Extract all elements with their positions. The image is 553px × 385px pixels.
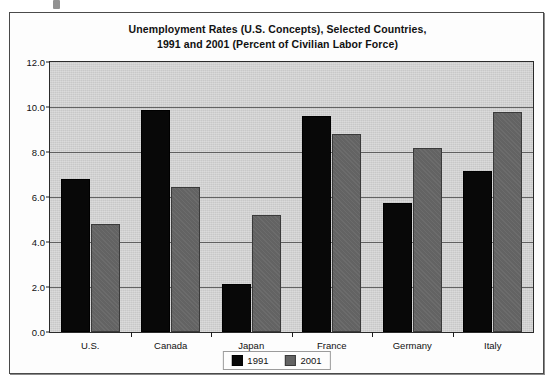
plot-area: 0.02.04.06.08.010.012.0U.S.CanadaJapanFr… (49, 61, 534, 333)
y-axis-tick-label: 0.0 (32, 327, 45, 338)
gridline (50, 287, 533, 288)
x-axis-tick-mark (372, 332, 373, 337)
bar-us-1991 (61, 179, 90, 332)
gridline (50, 197, 533, 198)
legend-entry-1991: 1991 (231, 355, 268, 366)
bar-france-1991 (302, 116, 331, 332)
bar-italy-2001 (493, 112, 522, 333)
x-axis-category-label: Italy (484, 340, 501, 351)
y-axis-tick-label: 6.0 (32, 192, 45, 203)
y-axis-tick-mark (46, 62, 50, 63)
chart-title: Unemployment Rates (U.S. Concepts), Sele… (10, 22, 545, 51)
bar-italy-1991 (463, 171, 492, 332)
x-axis-category-label: France (317, 340, 347, 351)
y-axis-tick-mark (46, 242, 50, 243)
gridline (50, 152, 533, 153)
x-axis-tick-mark (453, 332, 454, 337)
y-axis-tick-mark (46, 152, 50, 153)
y-axis-tick-label: 12.0 (27, 57, 46, 68)
bar-canada-2001 (171, 187, 200, 332)
gridline (50, 107, 533, 108)
bar-france-2001 (332, 134, 361, 332)
y-axis-tick-label: 10.0 (27, 102, 46, 113)
y-axis-tick-mark (46, 287, 50, 288)
scan-artifact (53, 0, 60, 9)
chart-frame: Unemployment Rates (U.S. Concepts), Sele… (9, 12, 544, 374)
y-axis-tick-label: 4.0 (32, 237, 45, 248)
y-axis-tick-label: 8.0 (32, 147, 45, 158)
x-axis-tick-mark (292, 332, 293, 337)
legend-label-2001: 2001 (301, 355, 322, 366)
bar-japan-2001 (252, 215, 281, 332)
x-axis-tick-mark (211, 332, 212, 337)
x-axis-category-label: Japan (238, 340, 264, 351)
gridline (50, 242, 533, 243)
bar-germany-1991 (383, 203, 412, 332)
legend-swatch-1991 (231, 355, 242, 366)
x-axis-category-label: Canada (154, 340, 187, 351)
x-axis-category-label: U.S. (81, 340, 99, 351)
bar-us-2001 (91, 224, 120, 332)
y-axis-tick-mark (46, 332, 50, 333)
x-axis-category-label: Germany (393, 340, 432, 351)
y-axis-tick-mark (46, 107, 50, 108)
legend-entry-2001: 2001 (285, 355, 322, 366)
bar-canada-1991 (141, 110, 170, 332)
y-axis-tick-mark (46, 197, 50, 198)
bar-japan-1991 (222, 284, 251, 332)
legend-label-1991: 1991 (247, 355, 268, 366)
y-axis-tick-label: 2.0 (32, 282, 45, 293)
chart-title-line-1: Unemployment Rates (U.S. Concepts), Sele… (10, 22, 545, 37)
bar-germany-2001 (413, 148, 442, 333)
x-axis-tick-mark (131, 332, 132, 337)
chart-legend: 19912001 (222, 351, 330, 370)
legend-swatch-2001 (285, 355, 296, 366)
chart-title-line-2: 1991 and 2001 (Percent of Civilian Labor… (10, 37, 545, 52)
